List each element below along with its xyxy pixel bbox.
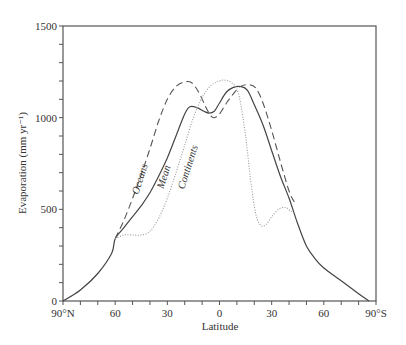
continents-curve bbox=[115, 80, 294, 239]
y-tick-label: 500 bbox=[41, 203, 58, 215]
mean-curve-label: Mean bbox=[154, 164, 172, 191]
axis-ticks: 05001000150090°N60300306090°S bbox=[35, 20, 387, 319]
plot-border bbox=[63, 26, 376, 301]
oceans-curve-label: Oceans bbox=[130, 162, 150, 195]
mean-curve bbox=[63, 86, 369, 301]
x-tick-label: 60 bbox=[110, 307, 122, 319]
oceans-curve bbox=[115, 81, 294, 238]
y-tick-label: 1000 bbox=[35, 112, 58, 124]
x-tick-label: 60 bbox=[318, 307, 330, 319]
y-axis-label: Evaporation (mm yr⁻¹) bbox=[16, 112, 29, 214]
x-tick-label: 30 bbox=[162, 307, 174, 319]
x-tick-label: 0 bbox=[217, 307, 223, 319]
x-tick-label: 90°S bbox=[365, 307, 387, 319]
y-tick-label: 1500 bbox=[35, 20, 58, 32]
x-axis-label: Latitude bbox=[202, 320, 239, 332]
y-tick-label: 0 bbox=[52, 295, 58, 307]
plot-frame bbox=[63, 26, 376, 301]
x-tick-label: 30 bbox=[266, 307, 278, 319]
x-tick-label: 90°N bbox=[51, 307, 74, 319]
evaporation-chart: 05001000150090°N60300306090°S Latitude E… bbox=[0, 0, 406, 345]
curves bbox=[63, 80, 369, 301]
continents-curve-label: Continents bbox=[175, 144, 200, 191]
